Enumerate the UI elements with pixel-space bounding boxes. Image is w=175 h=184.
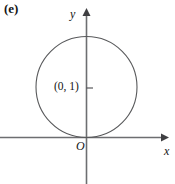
- y-axis-arrowhead: [83, 8, 91, 16]
- coordinate-plane-graphic: [0, 0, 175, 184]
- x-axis-arrowhead: [161, 134, 169, 142]
- figure-panel: (e) y x O (0, 1): [0, 0, 175, 184]
- x-axis-label: x: [164, 145, 169, 157]
- circle-center-coordinate-label: (0, 1): [54, 81, 79, 93]
- origin-label: O: [76, 140, 85, 152]
- y-axis-label: y: [70, 8, 75, 20]
- part-label: (e): [4, 2, 18, 15]
